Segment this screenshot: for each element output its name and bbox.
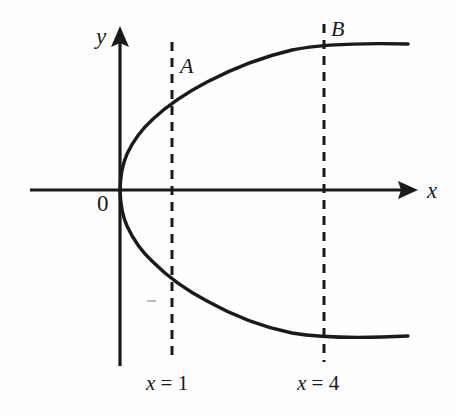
vline-x4-value: 4: [329, 371, 340, 395]
vline-x1-variable: x: [146, 371, 155, 395]
parabola-upper-branch: [120, 44, 408, 190]
vline-x1-value: 1: [178, 371, 189, 395]
x-axis-label: x: [427, 179, 437, 202]
parabola-lower-branch: [120, 190, 408, 337]
vline-x1-label: x = 1: [146, 373, 188, 394]
vline-x4-equals: =: [306, 371, 328, 395]
parabola-figure: y x 0 A B x = 1 x = 4: [0, 0, 456, 417]
point-a-label: A: [180, 55, 193, 77]
y-axis-label: y: [96, 25, 106, 48]
x-axis-arrow-icon: [398, 181, 418, 199]
figure-canvas: [0, 0, 456, 417]
origin-label: 0: [97, 192, 109, 215]
vline-x1-equals: =: [155, 371, 177, 395]
vline-x4-label: x = 4: [297, 373, 339, 394]
point-b-label: B: [331, 18, 344, 40]
vline-x4-variable: x: [297, 371, 306, 395]
scan-speck-artifact: [147, 300, 156, 302]
